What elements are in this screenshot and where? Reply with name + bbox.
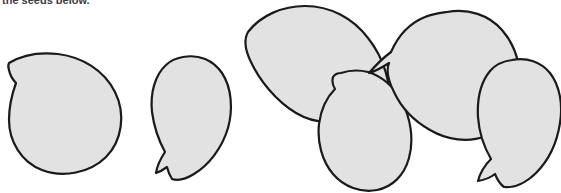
worksheet-page: the seeds below. [0, 0, 561, 193]
seed-outline-figure [0, 0, 561, 193]
seed-shape-group [8, 6, 561, 191]
seed-6-outline [478, 59, 561, 187]
seed-2-outline [152, 56, 231, 180]
seed-1-outline [8, 53, 121, 173]
